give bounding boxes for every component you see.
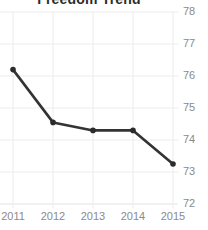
y-axis-tick-label: 73	[183, 166, 195, 177]
line-chart-svg	[0, 0, 178, 210]
data-point-marker	[10, 67, 16, 73]
x-axis-tick-label: 2015	[153, 211, 193, 222]
y-axis-tick-label: 78	[183, 6, 195, 17]
x-axis-tick-label: 2013	[73, 211, 113, 222]
plot-area	[0, 0, 178, 210]
data-point-marker	[170, 161, 176, 167]
y-axis-tick-label: 72	[183, 198, 195, 209]
x-axis-tick-label: 2012	[33, 211, 73, 222]
y-axis-tick-label: 74	[183, 134, 195, 145]
y-axis-tick-label: 75	[183, 102, 195, 113]
data-point-marker	[90, 128, 96, 134]
horizontal-gridlines	[0, 12, 178, 204]
y-axis-tick-label: 77	[183, 38, 195, 49]
x-axis-tick-label: 2011	[0, 211, 33, 222]
y-axis-tick-label: 76	[183, 70, 195, 81]
vertical-gridlines	[13, 12, 173, 208]
x-axis-tick-label: 2014	[113, 211, 153, 222]
data-point-marker	[50, 120, 56, 126]
chart-screenshot: Freedom Trend 72737475767778 20112012201…	[0, 0, 208, 230]
data-point-marker	[130, 128, 136, 134]
